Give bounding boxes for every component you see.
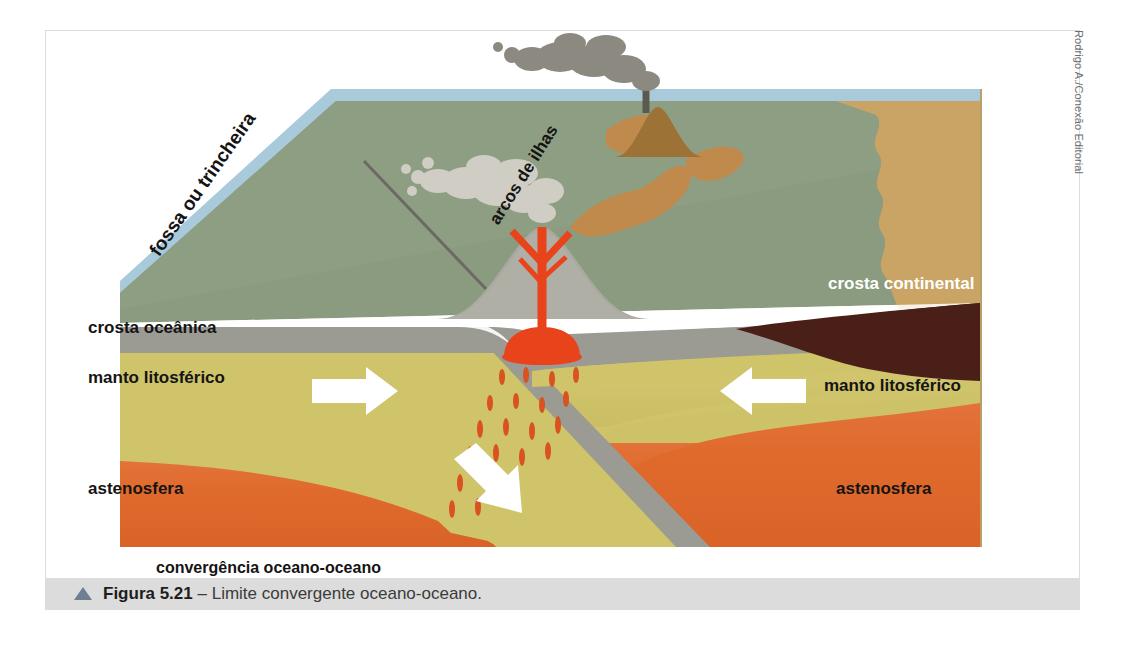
diagram-illustration: fossa ou trincheira arcos de ilhas crost… [46, 31, 1079, 578]
label-asthenosphere-left: astenosfera [88, 479, 183, 499]
diagram-title: convergência oceano-oceano [156, 559, 381, 577]
label-oceanic-crust: crosta oceânica [88, 318, 217, 338]
label-lithospheric-mantle-right: manto litosférico [824, 376, 961, 396]
caption-text: Limite convergente oceano-oceano. [212, 584, 482, 604]
caption-separator: – [193, 584, 212, 604]
label-asthenosphere-right: astenosfera [836, 479, 931, 499]
label-lithospheric-mantle-left: manto litosférico [88, 368, 225, 388]
figure-number: Figura 5.21 [103, 584, 193, 604]
figure-page: Rodrigo A./Conexão Editorial [0, 0, 1127, 660]
distant-island-smoke [493, 33, 660, 91]
block-right-face [980, 89, 982, 547]
triangle-up-icon [74, 587, 92, 600]
label-continental-crust: crosta continental [828, 274, 974, 294]
figure-caption-bar: Figura 5.21 – Limite convergente oceano-… [46, 578, 1079, 609]
